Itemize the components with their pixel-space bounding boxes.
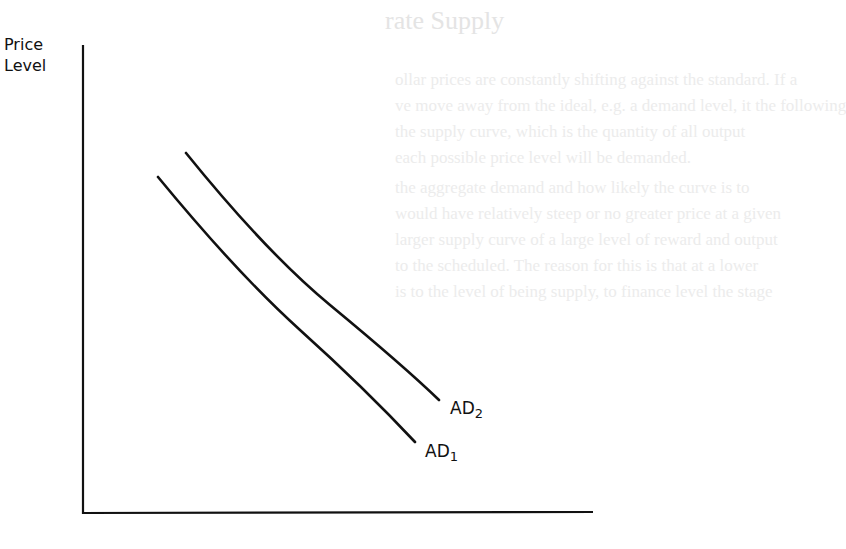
x-axis: [82, 512, 593, 513]
ad1-curve: [158, 177, 415, 442]
ad2-curve: [186, 153, 439, 400]
ad2-label: AD2: [450, 398, 483, 421]
ad1-label: AD1: [425, 441, 458, 464]
